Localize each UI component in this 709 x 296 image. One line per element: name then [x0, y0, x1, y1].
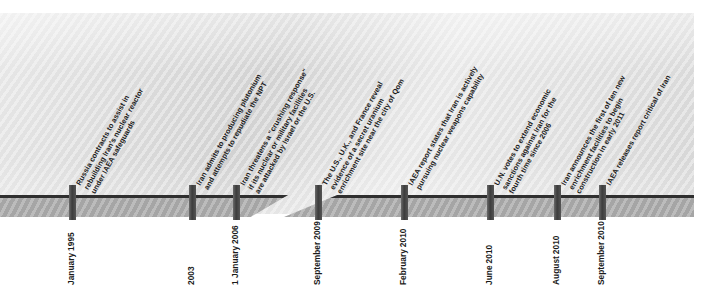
date-label-line: 1995 [66, 232, 76, 251]
date-label-line: 2003 [186, 266, 196, 285]
date-label: February2010 [398, 229, 408, 285]
date-label-line: 2010 [551, 236, 561, 255]
date-label-line: August [551, 256, 561, 285]
date-label-line: 2010 [398, 229, 408, 248]
date-label-line: September [312, 242, 322, 285]
date-label-line: 2010 [484, 245, 494, 264]
date-label-line: 1 January [230, 246, 240, 285]
date-label-line: January [66, 253, 76, 285]
timeline-tick [69, 185, 76, 220]
date-label-line: 2010 [596, 221, 606, 240]
date-label-line: February [398, 249, 408, 285]
date-label: 2003 [186, 266, 196, 285]
date-label: August2010 [551, 236, 561, 285]
timeline-infographic: Russia contracts to assist inrebuilding … [0, 0, 709, 296]
date-label-line: June [484, 265, 494, 285]
timeline-tick [401, 185, 408, 220]
timeline-tick [315, 185, 322, 220]
timeline-bar-left-segment [0, 195, 288, 217]
date-label-line: 2006 [230, 225, 240, 244]
timeline-tick [487, 185, 494, 220]
date-label-line: September [596, 242, 606, 285]
date-label: 1 January2006 [230, 225, 240, 285]
date-label: September2009 [312, 221, 322, 285]
timeline-tick [599, 185, 606, 220]
timeline-tick [554, 185, 561, 220]
date-label-line: 2009 [312, 221, 322, 240]
date-label: September2010 [596, 221, 606, 285]
date-label: June2010 [484, 245, 494, 285]
timeline-tick [189, 185, 196, 220]
timeline-tick [233, 185, 240, 220]
date-label: January1995 [66, 232, 76, 285]
